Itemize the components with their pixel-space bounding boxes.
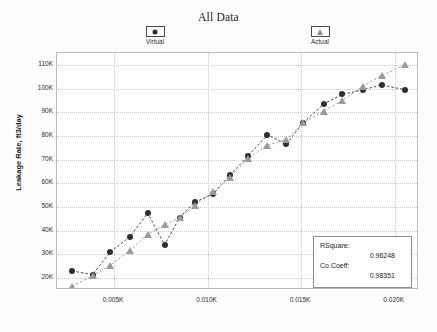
legend-item-virtual[interactable]: Virtual	[125, 26, 185, 45]
legend-label-virtual: Virtual	[125, 38, 185, 45]
statistics-box: RSquare: 0.96248 Co.Coeff: 0.98351	[313, 236, 412, 288]
data-point-virtual	[145, 210, 151, 216]
chart-root: All Data Virtual Actual Leakage Rate, ft…	[0, 0, 437, 332]
y-axis-tick: 100K	[23, 84, 53, 91]
y-axis-tick: 30K	[23, 249, 53, 256]
y-axis-tick: 50K	[23, 202, 53, 209]
y-axis-tick: 40K	[23, 226, 53, 233]
data-point-actual	[401, 61, 409, 68]
data-point-virtual	[127, 234, 133, 240]
data-point-actual	[338, 97, 346, 104]
data-point-actual	[144, 231, 152, 238]
data-point-actual	[244, 155, 252, 162]
rsquare-value: 0.96248	[320, 251, 405, 261]
cocoeff-label: Co.Coeff:	[320, 262, 349, 269]
data-point-actual	[68, 283, 76, 289]
data-point-actual	[106, 262, 114, 269]
data-point-actual	[282, 136, 290, 143]
data-point-virtual	[69, 268, 75, 274]
data-point-virtual	[162, 242, 168, 248]
y-axis-tick: 60K	[23, 178, 53, 185]
circle-marker-icon	[153, 29, 158, 34]
legend-item-actual[interactable]: Actual	[290, 26, 350, 45]
y-axis-tick: 70K	[23, 155, 53, 162]
x-axis-tick: 0.005K	[88, 296, 138, 303]
y-axis-tick-labels: 20K30K40K50K60K70K80K90K100K110K	[20, 52, 53, 289]
data-point-actual	[89, 272, 97, 279]
data-point-virtual	[402, 87, 408, 93]
data-point-actual	[378, 72, 386, 79]
data-point-actual	[176, 214, 184, 221]
data-point-actual	[126, 247, 134, 254]
data-point-actual	[161, 221, 169, 228]
legend-swatch-virtual	[146, 26, 165, 37]
x-axis-tick-labels: 0.005K0.010K0.015K0.020K	[56, 296, 418, 310]
data-point-actual	[299, 119, 307, 126]
y-axis-tick: 20K	[23, 273, 53, 280]
legend-label-actual: Actual	[290, 38, 350, 45]
x-axis-tick: 0.010K	[182, 296, 232, 303]
cocoeff-value: 0.98351	[320, 271, 405, 281]
data-point-actual	[226, 174, 234, 181]
data-point-actual	[359, 83, 367, 90]
rsquare-label: RSquare:	[320, 242, 350, 249]
y-axis-tick: 90K	[23, 107, 53, 114]
data-point-actual	[191, 202, 199, 209]
page-title: All Data	[0, 11, 437, 23]
data-point-actual	[320, 108, 328, 115]
data-point-virtual	[321, 101, 327, 107]
y-axis-tick: 110K	[23, 60, 53, 67]
triangle-marker-icon	[317, 29, 323, 35]
data-point-actual	[209, 188, 217, 195]
data-point-actual	[263, 142, 271, 149]
data-point-virtual	[379, 82, 385, 88]
x-axis-tick: 0.015K	[275, 296, 325, 303]
x-axis-tick: 0.020K	[369, 296, 419, 303]
legend-swatch-actual	[311, 26, 330, 37]
y-axis-tick: 80K	[23, 131, 53, 138]
